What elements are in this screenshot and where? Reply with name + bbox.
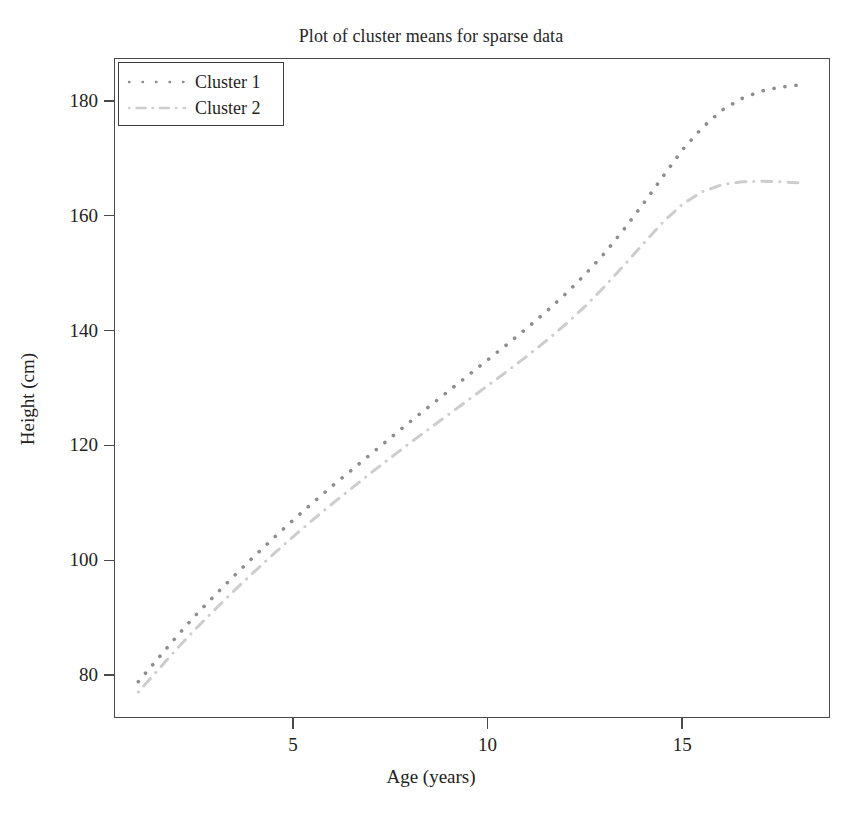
chart-legend: Cluster 1 Cluster 2 <box>118 62 284 126</box>
legend-label-cluster-2: Cluster 2 <box>195 98 261 119</box>
y-axis-tick-label: 80 <box>79 664 98 686</box>
plot-area <box>115 59 829 717</box>
x-axis-tick-label: 10 <box>478 734 497 756</box>
legend-line-sample-cluster-1 <box>127 74 187 90</box>
y-axis-tick-label: 140 <box>70 320 99 342</box>
x-axis-tick-label: 5 <box>288 734 298 756</box>
y-axis-tick-label: 180 <box>70 90 99 112</box>
y-axis-label-wrap: Height (cm) <box>17 309 39 489</box>
series-line-cluster-2 <box>138 181 800 692</box>
y-axis-tick-label: 120 <box>70 434 99 456</box>
legend-line-sample-cluster-2 <box>127 100 187 116</box>
x-axis-label: Age (years) <box>0 766 862 788</box>
y-axis-tick-label: 160 <box>70 205 99 227</box>
x-axis-tick-label: 15 <box>673 734 692 756</box>
chart-figure: Plot of cluster means for sparse data 80… <box>0 0 862 825</box>
legend-item-cluster-1[interactable]: Cluster 1 <box>119 69 283 95</box>
x-axis-tick-mark <box>681 718 682 729</box>
x-axis-tick-mark <box>487 718 488 729</box>
legend-label-cluster-1: Cluster 1 <box>195 72 261 93</box>
y-axis-tick-label: 100 <box>70 549 99 571</box>
series-line-cluster-1 <box>138 85 800 682</box>
series-svg <box>115 59 829 717</box>
y-axis-label: Height (cm) <box>17 353 38 445</box>
chart-title: Plot of cluster means for sparse data <box>0 26 862 47</box>
x-axis-tick-mark <box>292 718 293 729</box>
plot-frame <box>114 58 830 718</box>
y-axis-tick-labels: 80100120140160180 <box>0 0 98 825</box>
legend-item-cluster-2[interactable]: Cluster 2 <box>119 95 283 121</box>
